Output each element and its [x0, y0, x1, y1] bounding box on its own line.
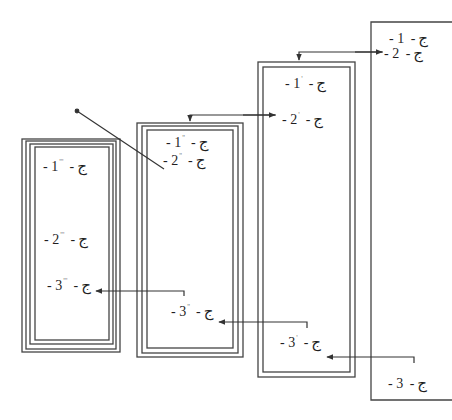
prime-mark: ''	[179, 152, 182, 161]
item-number: 1	[51, 159, 58, 174]
separator: -	[306, 112, 311, 127]
item-number: 2	[392, 46, 399, 61]
item-number: 1	[293, 76, 300, 91]
separator: -	[70, 159, 75, 174]
prime-mark: '''	[60, 231, 64, 240]
letter: ج	[316, 74, 326, 92]
prime-mark: ''	[182, 134, 185, 143]
separator: -	[410, 376, 415, 391]
dash: -	[166, 135, 171, 150]
prime-mark: ''	[187, 303, 190, 312]
separator: -	[304, 335, 309, 350]
item-number: 2	[171, 153, 178, 168]
letter: ج	[311, 333, 321, 351]
item-number: 2	[52, 232, 59, 247]
frame-3-item-2: - 2'-ج	[282, 108, 323, 128]
frame-2-item-2: - 2''-ج	[163, 149, 205, 169]
frame-2-item-3: - 3''-ج	[171, 300, 213, 320]
frame-3-item-3: - 3'-ج	[280, 331, 321, 351]
prime-mark: '''	[63, 277, 67, 286]
dash: -	[43, 159, 48, 174]
letter: ج	[199, 133, 209, 151]
separator: -	[188, 153, 193, 168]
letter: ج	[81, 276, 91, 294]
letter: ج	[204, 302, 214, 320]
frame-4-item-2: - 2 -ج	[384, 45, 423, 62]
frame-1-item-1: - 1'''-ج	[43, 155, 87, 175]
diagram-canvas	[0, 0, 452, 420]
connectors	[75, 52, 414, 363]
frame-3-item-1: - 1'-ج	[285, 72, 326, 92]
dash: -	[171, 304, 176, 319]
item-number: 1	[397, 31, 404, 46]
item-number: 1	[174, 135, 181, 150]
item-number: 3	[288, 335, 295, 350]
prime-mark: '''	[59, 158, 63, 167]
prime-mark: '	[296, 334, 297, 343]
separator: -	[74, 278, 79, 293]
frame-4-item-3: - 3 -ج	[388, 375, 427, 392]
frame-1-item-2: - 2'''-ج	[44, 228, 88, 248]
letter: ج	[78, 230, 88, 248]
separator: -	[196, 304, 201, 319]
diagonal-line-endpoint	[75, 109, 79, 113]
dash: -	[389, 31, 394, 46]
letter: ج	[413, 44, 423, 62]
dash: -	[44, 232, 49, 247]
item-number: 3	[55, 278, 62, 293]
separator: -	[191, 135, 196, 150]
dash: -	[388, 376, 393, 391]
frame-1-item-3: - 3'''-ج	[47, 274, 91, 294]
item-number: 3	[179, 304, 186, 319]
dash: -	[163, 153, 168, 168]
dash: -	[285, 76, 290, 91]
separator: -	[309, 76, 314, 91]
letter: ج	[196, 151, 206, 169]
separator: -	[71, 232, 76, 247]
item-number: 2	[290, 112, 297, 127]
separator: -	[406, 46, 411, 61]
prime-mark: '	[301, 75, 302, 84]
dash: -	[282, 112, 287, 127]
prime-mark: '	[298, 111, 299, 120]
letter: ج	[77, 157, 87, 175]
frame-4	[371, 22, 452, 400]
item-number: 3	[396, 376, 403, 391]
letter: ج	[417, 374, 427, 392]
frame-2-item-1: - 1''-ج	[166, 131, 208, 151]
letter: ج	[313, 110, 323, 128]
dash: -	[384, 46, 389, 61]
dash: -	[47, 278, 52, 293]
dash: -	[280, 335, 285, 350]
